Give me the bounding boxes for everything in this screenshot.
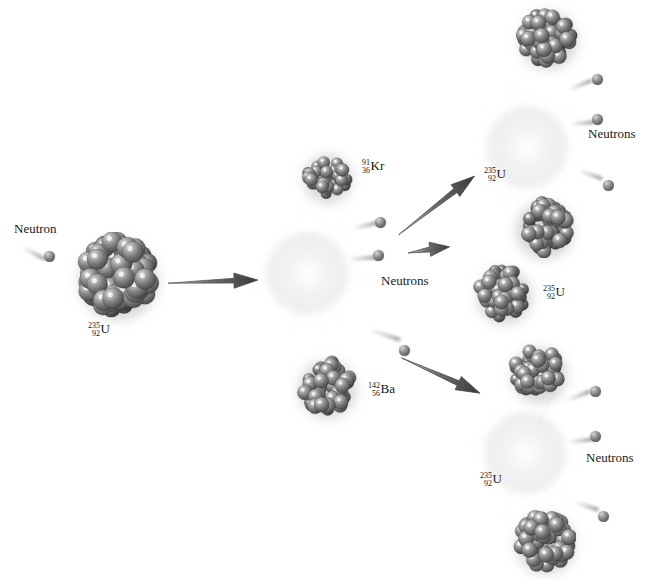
fission-chain-reaction-diagram: Neutron 23592U 9136Kr 14256Ba Neutrons [0,0,647,580]
arrow-to-nucleus-middle [407,238,453,261]
arrow-to-fission-top [393,168,482,241]
isotope-label-kr91: 9136Kr [362,159,384,175]
neutron-primary-1 [375,217,386,228]
arrow-to-fission-bottom [398,349,485,403]
isotope-label-u235-top: 23592U [484,167,506,183]
isotope-label-u235-source: 23592U [88,322,110,338]
neutron-incoming [44,251,55,262]
neutron-trail-primary-1 [352,221,378,231]
neutrons-label-bottom-right: Neutrons [586,451,634,464]
neutron-bottom-3 [598,511,609,522]
neutron-bottom-2 [590,431,601,442]
neutron-trail-top-1 [567,78,593,91]
neutron-top-2 [592,114,603,125]
isotope-label-u235-bottom: 23592U [480,472,502,488]
neutron-trail-top-3 [577,168,603,181]
nucleus-fragment-bottom-right-lower [512,509,576,573]
neutron-trail-incoming [21,245,46,261]
neutron-trail-primary-3 [369,328,401,342]
isotope-label-ba142: 14256Ba [368,382,395,398]
neutron-trail-bottom-3 [573,500,599,512]
nucleus-fragment-top-right-lower [512,196,574,258]
neutrons-label-top-right: Neutrons [588,127,636,140]
nucleus-ba142 [295,355,357,417]
neutron-top-3 [603,180,614,191]
isotope-label-u235-middle: 23592U [543,285,565,301]
neutron-label-incoming: Neutron [14,222,57,235]
neutron-trail-primary-2 [348,256,376,261]
neutrons-label-center: Neutrons [381,274,429,287]
neutron-bottom-1 [590,386,601,397]
nucleus-u235-source [74,232,160,318]
arrow-incident-neutron [168,270,260,292]
neutron-top-1 [592,74,603,85]
nucleus-fragment-top-right-upper [516,6,578,68]
nucleus-kr91 [301,150,353,202]
neutron-trail-bottom-1 [565,389,591,402]
nucleus-fragment-bottom-right-upper [508,342,568,402]
nucleus-u235-middle [473,263,533,323]
neutron-trail-bottom-2 [568,438,592,444]
neutron-primary-2 [373,250,384,261]
